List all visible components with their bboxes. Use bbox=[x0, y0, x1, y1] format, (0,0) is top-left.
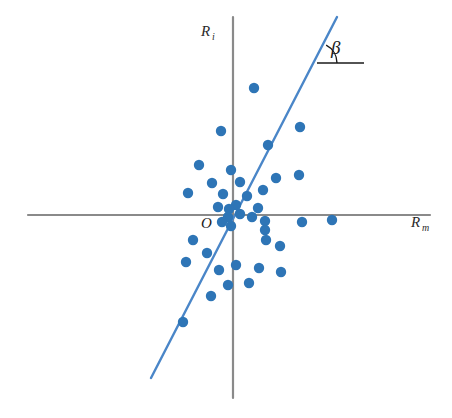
data-point bbox=[254, 263, 264, 273]
data-points-group bbox=[178, 83, 337, 327]
data-point bbox=[258, 185, 268, 195]
angle-marker-group bbox=[317, 45, 364, 63]
data-point bbox=[223, 280, 233, 290]
x-axis-label-subscript: m bbox=[422, 222, 429, 233]
data-point bbox=[244, 278, 254, 288]
data-point bbox=[213, 202, 223, 212]
beta-angle-label: β bbox=[330, 37, 341, 58]
data-point bbox=[253, 203, 263, 213]
y-axis-label-subscript: i bbox=[212, 31, 215, 42]
plot-canvas: β R i R m O bbox=[0, 0, 452, 418]
data-point bbox=[188, 235, 198, 245]
data-point bbox=[216, 126, 226, 136]
data-point bbox=[217, 217, 227, 227]
data-point bbox=[294, 170, 304, 180]
data-point bbox=[206, 291, 216, 301]
data-point bbox=[226, 221, 236, 231]
data-point bbox=[226, 165, 236, 175]
data-point bbox=[202, 248, 212, 258]
data-point bbox=[260, 216, 270, 226]
data-point bbox=[297, 217, 307, 227]
data-point bbox=[194, 160, 204, 170]
y-axis-label-base: R bbox=[200, 23, 210, 39]
data-point bbox=[235, 209, 245, 219]
data-point bbox=[295, 122, 305, 132]
y-axis-label-group: R i bbox=[200, 23, 215, 42]
data-point bbox=[276, 267, 286, 277]
data-point bbox=[183, 188, 193, 198]
data-point bbox=[207, 178, 217, 188]
data-point bbox=[231, 260, 241, 270]
data-point bbox=[261, 235, 271, 245]
data-point bbox=[260, 225, 270, 235]
data-point bbox=[275, 241, 285, 251]
data-point bbox=[181, 257, 191, 267]
data-point bbox=[263, 140, 273, 150]
data-point bbox=[247, 212, 257, 222]
data-point bbox=[214, 265, 224, 275]
origin-label: O bbox=[201, 215, 212, 231]
data-point bbox=[327, 215, 337, 225]
x-axis-label-base: R bbox=[410, 214, 420, 230]
x-axis-label-group: R m bbox=[410, 214, 429, 233]
data-point bbox=[178, 317, 188, 327]
data-point bbox=[218, 189, 228, 199]
scatter-plot-figure: β R i R m O bbox=[0, 0, 452, 418]
data-point bbox=[235, 177, 245, 187]
data-point bbox=[242, 191, 252, 201]
data-point bbox=[271, 173, 281, 183]
data-point bbox=[249, 83, 259, 93]
